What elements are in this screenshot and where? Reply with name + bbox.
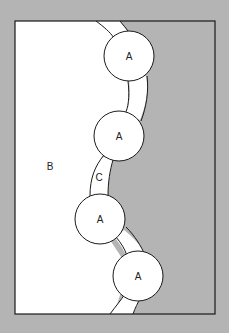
circle-a-1-label: A bbox=[126, 51, 133, 62]
band-c-label: C bbox=[95, 172, 102, 183]
circle-a-3-label: A bbox=[97, 214, 104, 225]
region-b-label: B bbox=[47, 161, 54, 172]
circle-a-4-label: A bbox=[135, 271, 142, 282]
circle-a-1: A bbox=[104, 31, 154, 81]
circle-a-2-label: A bbox=[116, 131, 123, 142]
circle-a-3: A bbox=[75, 194, 125, 244]
diagram-canvas: A A A A B C bbox=[0, 0, 229, 333]
circle-a-2: A bbox=[94, 111, 144, 161]
circle-a-4: A bbox=[113, 251, 163, 301]
